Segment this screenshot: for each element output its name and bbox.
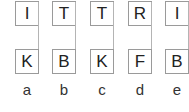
column-c: T K c: [90, 0, 114, 112]
top-letter-box: T: [90, 1, 114, 26]
column-label: c: [90, 82, 114, 97]
column-label: e: [165, 82, 189, 97]
column-label: d: [128, 82, 152, 97]
bottom-letter-box: B: [165, 49, 189, 74]
column-a: I K a: [15, 0, 39, 112]
top-letter-box: I: [165, 1, 189, 26]
column-b: T B b: [52, 0, 76, 112]
column-label: b: [52, 82, 76, 97]
column-d: R F d: [128, 0, 152, 112]
column-e: I B e: [165, 0, 189, 112]
connector-line: [151, 2, 152, 49]
bottom-letter-box: K: [90, 49, 114, 74]
bottom-letter-box: F: [128, 49, 152, 74]
bottom-letter-box: B: [52, 49, 76, 74]
top-letter-box: I: [15, 1, 39, 26]
connector-line: [113, 2, 114, 49]
top-letter-box: T: [52, 1, 76, 26]
connector-line: [188, 2, 189, 49]
column-label: a: [15, 82, 39, 97]
bottom-letter-box: K: [15, 49, 39, 74]
top-letter-box: R: [128, 1, 152, 26]
connector-line: [75, 2, 76, 49]
connector-line: [38, 2, 39, 49]
